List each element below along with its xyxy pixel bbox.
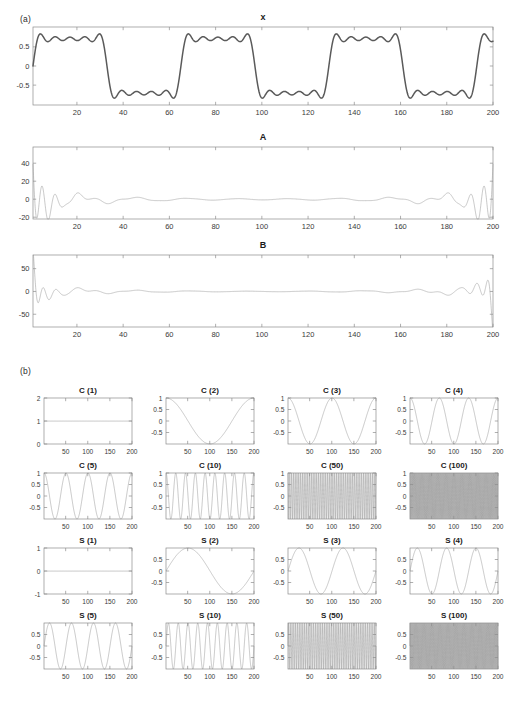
svg-text:-50: -50 [19,310,30,319]
svg-text:180: 180 [441,108,454,117]
svg-text:150: 150 [348,448,359,455]
svg-text:-20: -20 [19,213,30,222]
svg-text:100: 100 [256,222,269,231]
svg-text:120: 120 [302,330,315,339]
svg-text:0: 0 [37,441,41,448]
svg-text:0: 0 [25,62,29,71]
svg-text:40: 40 [119,108,127,117]
svg-text:100: 100 [204,448,215,455]
svg-text:50: 50 [62,598,70,605]
svg-text:160: 160 [394,222,407,231]
svg-text:0: 0 [37,493,41,500]
svg-text:50: 50 [428,673,436,680]
svg-text:50: 50 [184,448,192,455]
svg-text:100: 100 [82,598,93,605]
svg-text:100: 100 [326,673,337,680]
svg-text:-0.5: -0.5 [151,654,163,661]
svg-text:0: 0 [281,493,285,500]
svg-text:100: 100 [82,523,93,530]
svg-text:0: 0 [37,568,41,575]
svg-text:60: 60 [165,222,173,231]
svg-text:200: 200 [487,108,500,117]
svg-text:60: 60 [165,108,173,117]
svg-text:150: 150 [104,523,115,530]
svg-text:0: 0 [281,568,285,575]
svg-text:1: 1 [403,395,407,402]
svg-text:150: 150 [470,448,481,455]
svg-text:0.5: 0.5 [275,556,284,563]
svg-text:0: 0 [37,643,41,650]
svg-text:50: 50 [428,448,436,455]
svg-text:0: 0 [25,195,29,204]
svg-text:200: 200 [492,598,503,605]
svg-text:150: 150 [348,598,359,605]
svg-text:-0.5: -0.5 [273,579,285,586]
svg-text:20: 20 [73,330,81,339]
svg-text:0.5: 0.5 [31,481,40,488]
svg-text:-0.5: -0.5 [395,654,407,661]
svg-text:100: 100 [448,448,459,455]
svg-text:100: 100 [448,673,459,680]
svg-text:100: 100 [448,598,459,605]
svg-text:1: 1 [159,470,163,477]
svg-text:0.5: 0.5 [19,42,29,51]
svg-text:0.5: 0.5 [397,556,406,563]
svg-text:0.5: 0.5 [153,556,162,563]
svg-text:50: 50 [184,523,192,530]
svg-text:150: 150 [470,598,481,605]
svg-text:0.5: 0.5 [153,406,162,413]
svg-text:150: 150 [104,448,115,455]
svg-text:160: 160 [394,330,407,339]
svg-text:150: 150 [470,673,481,680]
svg-text:180: 180 [441,222,454,231]
svg-text:-0.5: -0.5 [151,504,163,511]
svg-text:50: 50 [62,673,70,680]
svg-text:50: 50 [428,523,436,530]
svg-text:1: 1 [403,470,407,477]
svg-text:0: 0 [281,418,285,425]
svg-text:140: 140 [348,108,361,117]
svg-text:0: 0 [403,418,407,425]
svg-text:100: 100 [204,673,215,680]
svg-text:100: 100 [326,448,337,455]
svg-text:0: 0 [25,287,29,296]
svg-text:-0.5: -0.5 [273,504,285,511]
svg-text:80: 80 [211,108,219,117]
svg-text:-0.5: -0.5 [151,579,163,586]
svg-text:50: 50 [306,673,314,680]
svg-text:50: 50 [428,598,436,605]
svg-text:140: 140 [348,330,361,339]
svg-text:20: 20 [21,177,29,186]
svg-text:-0.5: -0.5 [29,654,41,661]
svg-text:60: 60 [165,330,173,339]
svg-text:-0.5: -0.5 [273,654,285,661]
svg-text:160: 160 [394,108,407,117]
svg-text:100: 100 [82,673,93,680]
svg-text:0: 0 [159,568,163,575]
svg-text:150: 150 [348,523,359,530]
svg-text:80: 80 [211,222,219,231]
svg-text:100: 100 [204,598,215,605]
svg-text:50: 50 [306,448,314,455]
svg-text:120: 120 [302,222,315,231]
svg-text:50: 50 [306,598,314,605]
svg-text:2: 2 [37,395,41,402]
svg-text:0.5: 0.5 [31,631,40,638]
svg-text:50: 50 [62,448,70,455]
svg-text:140: 140 [348,222,361,231]
svg-text:100: 100 [326,598,337,605]
svg-text:-1: -1 [35,591,41,598]
svg-text:50: 50 [21,264,29,273]
svg-text:0.5: 0.5 [397,631,406,638]
svg-text:-0.5: -0.5 [395,504,407,511]
svg-text:20: 20 [73,108,81,117]
svg-text:0: 0 [403,493,407,500]
panel-label-b: (b) [20,366,31,376]
svg-text:100: 100 [256,330,269,339]
svg-text:150: 150 [470,523,481,530]
svg-text:180: 180 [441,330,454,339]
svg-text:40: 40 [119,330,127,339]
svg-text:100: 100 [256,108,269,117]
svg-text:1: 1 [281,470,285,477]
svg-text:-0.5: -0.5 [395,579,407,586]
